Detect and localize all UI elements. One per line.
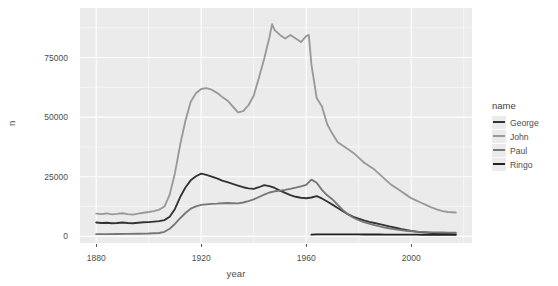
x-tick-mark xyxy=(96,244,97,247)
legend-entry-label: Paul xyxy=(510,146,527,156)
legend-entry-paul[interactable]: Paul xyxy=(492,144,554,157)
x-tick-label: 1920 xyxy=(181,253,221,263)
x-axis-ticks: 1880192019602000 xyxy=(0,0,558,286)
legend-entry-label: Ringo xyxy=(510,160,532,170)
legend-entry-label: George xyxy=(510,118,539,128)
legend-key-swatch xyxy=(492,116,506,129)
x-tick-mark xyxy=(306,244,307,247)
x-tick-mark xyxy=(201,244,202,247)
legend-entry-george[interactable]: George xyxy=(492,116,554,129)
x-tick-label: 1880 xyxy=(76,253,116,263)
legend-key-swatch xyxy=(492,144,506,157)
legend-key-swatch xyxy=(492,158,506,171)
legend: name GeorgeJohnPaulRingo xyxy=(492,100,554,172)
x-axis-title: year xyxy=(0,268,472,279)
x-tick-mark xyxy=(411,244,412,247)
x-tick-label: 1960 xyxy=(286,253,326,263)
legend-entries: GeorgeJohnPaulRingo xyxy=(492,116,554,171)
legend-title: name xyxy=(492,100,554,111)
x-tick-label: 2000 xyxy=(391,253,431,263)
legend-key-swatch xyxy=(492,130,506,143)
legend-entry-john[interactable]: John xyxy=(492,130,554,143)
legend-entry-label: John xyxy=(510,132,529,142)
chart-figure: n 0250005000075000 1880192019602000 year… xyxy=(0,0,558,286)
legend-entry-ringo[interactable]: Ringo xyxy=(492,158,554,171)
